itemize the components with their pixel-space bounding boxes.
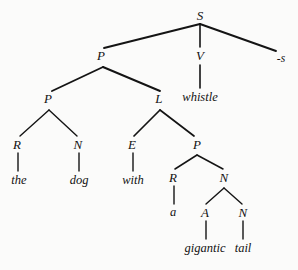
tree-edge-n2-adj (206, 188, 224, 204)
tree-node-l: L (155, 92, 162, 105)
tree-node-adj: A (201, 206, 209, 219)
tree-node-p3: P (193, 138, 201, 151)
tree-node-suffix_s: -s (277, 53, 285, 65)
tree-edge-n2-n3 (224, 188, 242, 204)
tree-node-whistle: whistle (182, 91, 217, 104)
tree-node-n1: N (74, 138, 83, 151)
tree-edge-p2-r1 (20, 110, 49, 136)
tree-edge-s-p1 (104, 24, 200, 48)
tree-edge-p1-p2 (52, 67, 103, 91)
tree-node-the: the (11, 174, 26, 187)
tree-node-p1: P (97, 49, 105, 62)
tree-branch-lines (0, 0, 298, 270)
tree-node-n2: N (220, 171, 229, 184)
tree-edge-l-e (134, 110, 160, 136)
tree-node-r2: R (169, 171, 177, 184)
tree-node-dog: dog (70, 174, 89, 187)
tree-node-v: V (196, 49, 204, 62)
tree-node-n3: N (239, 206, 248, 219)
tree-node-with: with (122, 174, 144, 187)
tree-edge-p3-n2 (197, 155, 223, 169)
tree-edge-p1-l (103, 67, 160, 91)
tree-node-s: S (197, 9, 204, 22)
tree-node-e: E (128, 138, 136, 151)
tree-node-p2: P (44, 92, 52, 105)
tree-edge-s-suffix_s (200, 24, 276, 51)
syntax-tree-figure: SPV-swhistlePLRNEPthedogwithRNaANgiganti… (0, 0, 298, 270)
tree-node-r1: R (13, 138, 21, 151)
tree-node-gigantic: gigantic (185, 242, 226, 255)
tree-node-a: a (170, 206, 176, 219)
tree-edge-p2-n1 (49, 110, 77, 136)
tree-edge-p3-r2 (175, 155, 197, 169)
edge-group (18, 24, 276, 239)
tree-node-tail: tail (235, 242, 252, 255)
tree-edge-l-p3 (160, 110, 194, 136)
